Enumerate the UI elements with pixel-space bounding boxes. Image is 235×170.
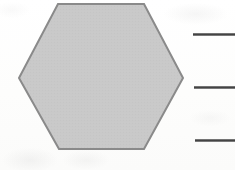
answer-line-3[interactable] <box>195 139 235 142</box>
answer-lines-group <box>0 0 235 170</box>
answer-line-1[interactable] <box>193 33 235 36</box>
worksheet-canvas <box>0 0 235 170</box>
answer-line-2[interactable] <box>194 86 235 89</box>
